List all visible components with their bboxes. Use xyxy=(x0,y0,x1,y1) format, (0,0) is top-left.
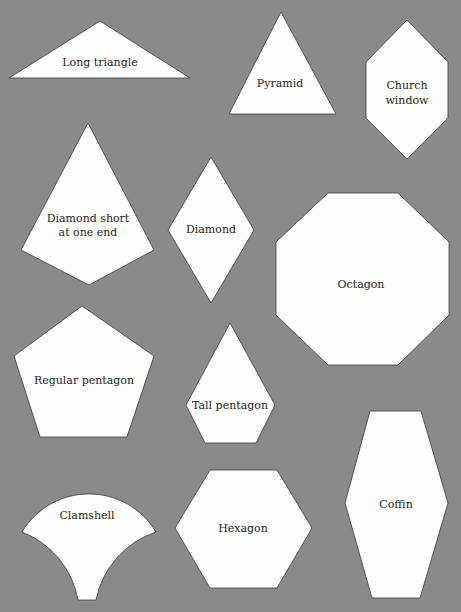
diamond-short-label-line1: Diamond short xyxy=(47,212,130,225)
church-window-label-line2: window xyxy=(385,94,429,107)
patchwork-shapes-diagram: Long triangle Pyramid Church window Diam… xyxy=(0,0,461,612)
diamond-short-label-line2: at one end xyxy=(59,226,118,239)
hexagon-label: Hexagon xyxy=(218,522,268,535)
tall-pentagon-label: Tall pentagon xyxy=(192,399,268,412)
pyramid-label: Pyramid xyxy=(257,77,303,90)
diamond-label: Diamond xyxy=(186,223,236,236)
coffin-label: Coffin xyxy=(379,498,412,511)
long-triangle-label: Long triangle xyxy=(62,56,137,69)
church-window-label-line1: Church xyxy=(386,79,427,92)
octagon-label: Octagon xyxy=(338,278,385,291)
octagon-shape: Octagon xyxy=(276,193,449,365)
regular-pentagon-label: Regular pentagon xyxy=(34,374,134,387)
clamshell-label: Clamshell xyxy=(59,509,115,522)
